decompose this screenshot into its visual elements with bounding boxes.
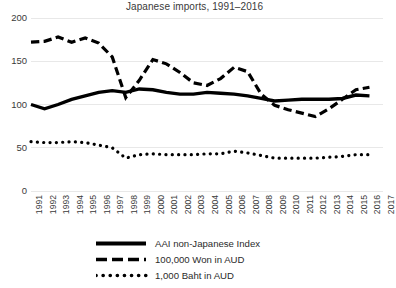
series-line-1 xyxy=(31,89,369,109)
x-axis-tick-label: 2007 xyxy=(252,195,261,214)
x-axis-tick-label: 2014 xyxy=(346,195,355,214)
legend-item-label: 1,000 Baht in AUD xyxy=(155,271,234,281)
legend-item[interactable]: 100,000 Won in AUD xyxy=(96,254,260,265)
y-axis-tick-label: 200 xyxy=(11,13,27,23)
x-axis-tick-label: 2001 xyxy=(170,195,179,214)
y-axis-tick-label: 100 xyxy=(11,100,27,110)
plot-area: 0501001502001991199219931994199519961997… xyxy=(31,18,383,191)
x-axis-tick-label: 2008 xyxy=(265,195,274,214)
x-axis-tick-label: 1995 xyxy=(89,195,98,214)
chart-canvas xyxy=(31,18,383,191)
x-axis-tick-label: 2015 xyxy=(360,195,369,214)
y-axis-tick-label: 0 xyxy=(22,186,27,196)
y-axis-tick-label: 50 xyxy=(16,143,27,153)
x-axis-tick-label: 2009 xyxy=(279,195,288,214)
x-axis-tick-label: 2011 xyxy=(306,195,315,213)
legend-item-label: 100,000 Won in AUD xyxy=(155,255,244,265)
chart-title: Japanese imports, 1991–2016 xyxy=(0,1,389,12)
x-axis-tick-label: 2000 xyxy=(157,195,166,214)
x-axis-tick-label: 1994 xyxy=(76,195,85,214)
legend-item-label: AAI non-Japanese Index xyxy=(155,239,260,249)
y-axis-tick-label: 150 xyxy=(11,57,27,67)
x-axis-tick-label: 1996 xyxy=(103,195,112,214)
x-axis-tick-label: 2017 xyxy=(387,195,396,214)
series-line-3 xyxy=(31,142,369,158)
x-axis-tick-label: 1992 xyxy=(49,195,58,214)
x-axis-tick-label: 2004 xyxy=(211,195,220,214)
legend-swatch-solid-icon xyxy=(96,238,148,249)
chart-legend: AAI non-Japanese Index100,000 Won in AUD… xyxy=(96,238,260,281)
x-axis-tick-label: 1991 xyxy=(35,195,44,214)
x-axis-tick-label: 1993 xyxy=(62,195,71,214)
x-axis-tick-label: 2012 xyxy=(319,195,328,214)
x-axis-tick-label: 2006 xyxy=(238,195,247,214)
legend-swatch-dotted-icon xyxy=(96,270,148,281)
x-axis-tick-label: 2016 xyxy=(373,195,382,214)
x-axis-tick-label: 1998 xyxy=(130,195,139,214)
x-axis-tick-label: 2010 xyxy=(292,195,301,214)
legend-item[interactable]: AAI non-Japanese Index xyxy=(96,238,260,249)
legend-item[interactable]: 1,000 Baht in AUD xyxy=(96,270,260,281)
x-axis-tick-label: 1999 xyxy=(143,195,152,214)
x-axis-tick-label: 2005 xyxy=(225,195,234,214)
x-axis-tick-label: 1997 xyxy=(116,195,125,214)
x-axis-tick-label: 2003 xyxy=(197,195,206,214)
x-axis-tick-label: 2002 xyxy=(184,195,193,214)
legend-swatch-dashed-icon xyxy=(96,254,148,265)
x-axis-tick-label: 2013 xyxy=(333,195,342,214)
